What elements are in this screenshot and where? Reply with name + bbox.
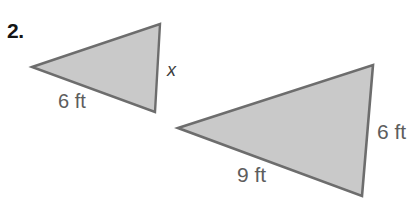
small-triangle-base-label: 6 ft xyxy=(58,91,86,111)
small-triangle-unknown-side-label: x xyxy=(167,61,176,79)
small-triangle xyxy=(32,24,160,112)
worksheet-problem-figure: 2. 6 ft x 9 ft 6 ft xyxy=(0,0,420,205)
large-triangle-right-side-label: 6 ft xyxy=(377,121,406,142)
large-triangle xyxy=(178,65,373,196)
problem-number: 2. xyxy=(7,20,24,41)
large-triangle-base-label: 9 ft xyxy=(237,164,266,185)
